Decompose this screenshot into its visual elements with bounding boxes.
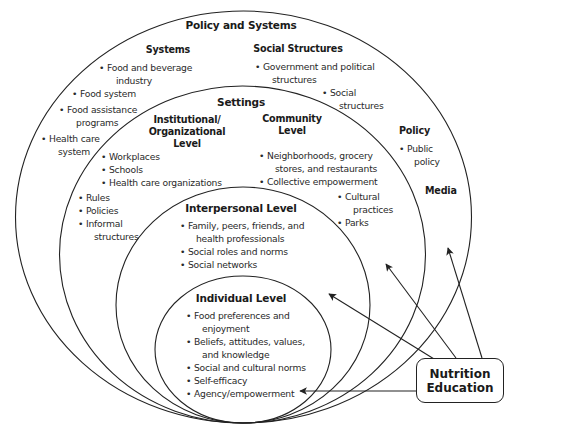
community-item: • Parks xyxy=(337,216,369,229)
individual-item: • Food preferences and xyxy=(186,309,290,322)
systems-item-cont: programs xyxy=(76,116,118,129)
institutional-heading-2: Organizational xyxy=(149,126,226,138)
individual-item: • Social and cultural norms xyxy=(186,361,306,374)
individual-item-cont: enjoyment xyxy=(202,322,249,335)
individual-item: • Agency/empowerment xyxy=(186,387,294,400)
systems-item: • Food system xyxy=(72,87,136,100)
institutional-item: • Health care organizations xyxy=(101,176,222,189)
social-structures-item-cont: structures xyxy=(272,73,316,86)
nutrition-education-box: Nutrition Education xyxy=(416,358,504,403)
nutrition-education-line1: Nutrition xyxy=(426,367,493,381)
systems-item-cont: system xyxy=(58,145,90,158)
community-item: • Collective empowerment xyxy=(259,175,377,188)
social-structures-item: • Social xyxy=(322,86,356,99)
community-item-cont: practices xyxy=(353,203,393,216)
interpersonal-heading: Interpersonal Level xyxy=(185,202,296,214)
individual-item: • Beliefs, attitudes, values, xyxy=(186,335,305,348)
institutional-item2: • Policies xyxy=(78,204,118,217)
community-item: • Neighborhoods, grocery xyxy=(259,149,373,162)
social-structures-item-cont: structures xyxy=(339,99,383,112)
systems-item: • Food assistance xyxy=(59,103,137,116)
systems-item: • Food and beverage xyxy=(99,61,192,74)
systems-item: • Health care xyxy=(41,132,100,145)
institutional-item: • Schools xyxy=(101,163,143,176)
institutional-heading-1: Institutional/ xyxy=(153,114,220,126)
policy-systems-heading: Policy and Systems xyxy=(186,19,297,31)
policy-heading: Policy xyxy=(399,125,430,137)
institutional-item2-cont: structures xyxy=(94,230,138,243)
interpersonal-item-cont: health professionals xyxy=(196,232,284,245)
community-heading-2: Level xyxy=(278,125,306,137)
settings-heading: Settings xyxy=(217,96,265,108)
community-item: • Cultural xyxy=(337,190,380,203)
policy-item-cont: policy xyxy=(414,155,440,168)
social-structures-item: • Government and political xyxy=(255,60,375,73)
media-heading: Media xyxy=(425,185,457,197)
nutrition-education-line2: Education xyxy=(426,381,493,395)
social-structures-heading: Social Structures xyxy=(253,43,342,55)
interpersonal-item: • Family, peers, friends, and xyxy=(180,219,304,232)
systems-heading: Systems xyxy=(146,44,190,56)
community-item-cont: stores, and restaurants xyxy=(275,162,377,175)
community-heading-1: Community xyxy=(262,113,322,125)
policy-item: • Public xyxy=(399,142,433,155)
institutional-item2: • Informal xyxy=(78,217,123,230)
institutional-heading-3: Level xyxy=(173,138,201,150)
interpersonal-item: • Social networks xyxy=(180,258,257,271)
individual-heading: Individual Level xyxy=(196,292,286,304)
individual-item: • Self-efficacy xyxy=(186,374,247,387)
individual-item-cont: and knowledge xyxy=(202,348,269,361)
systems-item-cont: industry xyxy=(116,74,152,87)
arrow-to-settings xyxy=(386,264,456,358)
interpersonal-item: • Social roles and norms xyxy=(180,245,288,258)
institutional-item: • Workplaces xyxy=(101,150,160,163)
institutional-item2: • Rules xyxy=(78,191,110,204)
